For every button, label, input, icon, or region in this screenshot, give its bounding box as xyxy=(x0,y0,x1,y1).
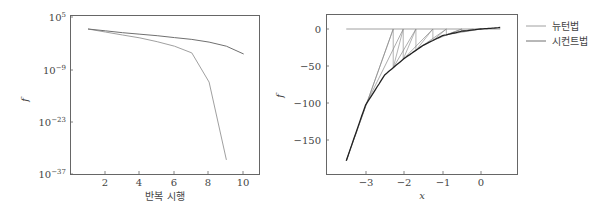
right-y-axis-label: f xyxy=(274,92,285,99)
left-x-axis-label: 반복 시행 xyxy=(145,191,184,202)
left-y-ticks: 10510−910−2310−37 xyxy=(38,11,73,180)
right-x-axis-label: x xyxy=(419,190,425,201)
y-tick-label: 0 xyxy=(315,24,321,35)
y-tick-label: 10−23 xyxy=(38,116,66,128)
x-tick-label: −1 xyxy=(436,177,451,188)
y-tick-label: −50 xyxy=(300,61,321,72)
left-chart: 246810 10510−910−2310−37 f 반복 시행 xyxy=(19,11,260,202)
right-chart: −3−2−10 0−50−100−150 f x xyxy=(274,15,518,202)
legend-item-newton: 뉴턴법 xyxy=(526,21,579,32)
x-tick-label: 8 xyxy=(205,177,211,188)
x-tick-label: 10 xyxy=(237,177,250,188)
x-tick-label: 6 xyxy=(171,177,177,188)
function-curve xyxy=(346,28,500,161)
secant-chord xyxy=(403,29,433,59)
left-y-axis-label: f xyxy=(19,96,30,103)
left-series-lines xyxy=(88,29,244,160)
right-x-ticks: −3−2−10 xyxy=(359,171,485,188)
x-tick-label: 4 xyxy=(136,177,142,188)
legend-item-secant: 시컨트법 xyxy=(526,36,588,47)
y-tick-label: 105 xyxy=(49,11,66,23)
legend-label-newton: 뉴턴법 xyxy=(552,21,579,32)
right-series-lines xyxy=(346,28,500,161)
y-tick-label: 10−9 xyxy=(43,64,66,76)
figure: 246810 10510−910−2310−37 f 반복 시행 −3−2−10… xyxy=(0,0,606,215)
secant-chord xyxy=(366,29,404,105)
left-plot-frame xyxy=(71,16,260,175)
x-tick-label: −2 xyxy=(397,177,412,188)
x-tick-label: 2 xyxy=(102,177,108,188)
right-y-ticks: 0−50−100−150 xyxy=(294,24,329,146)
legend-label-secant: 시컨트법 xyxy=(552,36,588,47)
right-plot-frame xyxy=(327,15,518,175)
x-tick-label: 0 xyxy=(478,177,484,188)
y-tick-label: −150 xyxy=(294,135,321,146)
newton-tangent xyxy=(393,29,403,68)
secant-chord xyxy=(393,29,416,68)
newton-series-line xyxy=(88,29,226,160)
y-tick-label: 10−37 xyxy=(38,168,66,180)
x-tick-label: −3 xyxy=(359,177,374,188)
newton-tangent xyxy=(416,29,433,50)
left-x-ticks: 246810 xyxy=(102,171,250,188)
legend: 뉴턴법 시컨트법 xyxy=(526,21,588,47)
y-tick-label: −100 xyxy=(294,98,321,109)
